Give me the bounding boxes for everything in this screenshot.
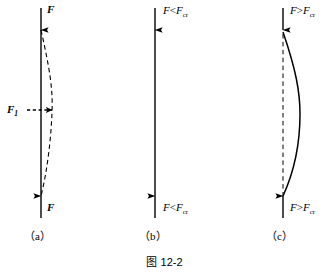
panel-a-bottom-force-label: F: [47, 202, 54, 213]
panel-c-top-force-critical-subscript: cr: [310, 11, 315, 19]
panel-b-bottom-force-critical: F: [176, 201, 183, 213]
figure-caption: 图 12-2: [0, 257, 329, 268]
panel-c-graphics: [283, 8, 300, 218]
panel-c-bottom-force-critical: F: [303, 201, 310, 213]
panel-label-c: （c）: [266, 231, 293, 242]
panel-b-bottom-force-critical-subscript: cr: [183, 208, 188, 216]
panel-label-a: （a）: [24, 231, 51, 242]
panel-c-bottom-force-condition: F>Fcr: [290, 202, 315, 216]
panel-b-top-force-critical: F: [176, 4, 183, 16]
panel-c-top-force-symbol: F: [290, 4, 297, 16]
panel-c-top-force-critical: F: [303, 4, 310, 16]
panel-a-deflection-curve: [41, 30, 52, 196]
panel-a-top-force-label: F: [47, 4, 54, 15]
panel-b-bottom-force-symbol: F: [163, 201, 170, 213]
panel-b-bottom-force-condition: F<Fcr: [163, 202, 188, 216]
panel-c-bottom-force-symbol: F: [290, 201, 297, 213]
panel-label-b: （b）: [139, 231, 167, 242]
panel-b-top-force-critical-subscript: cr: [183, 11, 188, 19]
panel-c-bottom-force-critical-subscript: cr: [310, 208, 315, 216]
panel-b-top-force-symbol: F: [163, 4, 170, 16]
figure-12-2: F F F1 F<Fcr F<Fcr F>Fcr F>Fcr （a） （b） （…: [0, 0, 329, 276]
panel-b-top-force-condition: F<Fcr: [163, 5, 188, 19]
panel-c-top-force-condition: F>Fcr: [290, 5, 315, 19]
panel-c-buckled-curve: [283, 32, 300, 196]
panel-a-lateral-force-subscript: 1: [14, 109, 18, 118]
panel-a-lateral-force-label: F1: [7, 104, 18, 118]
panel-a-graphics: [27, 8, 52, 218]
